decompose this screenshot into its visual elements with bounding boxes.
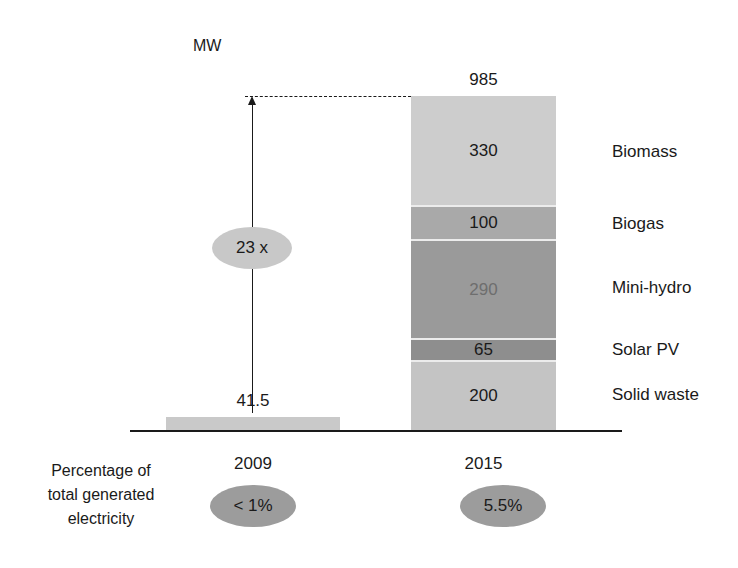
segment-value: 65 bbox=[474, 340, 493, 360]
legend-solar-pv: Solar PV bbox=[612, 340, 679, 360]
segment-value: 330 bbox=[469, 141, 497, 161]
total-2015-label: 985 bbox=[411, 70, 556, 90]
legend-solid-waste: Solid waste bbox=[612, 385, 699, 405]
segment-solar-pv: 65 bbox=[411, 340, 556, 362]
segment-value: 200 bbox=[469, 386, 497, 406]
x-label-2015: 2015 bbox=[411, 454, 556, 474]
arrow-up-icon bbox=[248, 96, 256, 105]
x-axis-baseline bbox=[130, 430, 622, 432]
legend-mini-hydro: Mini-hydro bbox=[612, 278, 691, 298]
legend-biogas: Biogas bbox=[612, 214, 664, 234]
pct-badge-2009: < 1% bbox=[210, 485, 296, 527]
segment-mini-hydro: 290 bbox=[411, 241, 556, 340]
segment-biogas: 100 bbox=[411, 207, 556, 241]
bar-2009 bbox=[166, 417, 340, 430]
legend-biomass: Biomass bbox=[612, 142, 677, 162]
pct-badge-2015: 5.5% bbox=[460, 485, 546, 527]
segment-biomass: 330 bbox=[411, 96, 556, 207]
y-axis-unit-label: MW bbox=[193, 36, 221, 56]
segment-solid-waste: 200 bbox=[411, 362, 556, 430]
bar-2015-stack: 330 100 290 65 200 bbox=[411, 96, 556, 430]
growth-badge: 23 x bbox=[212, 227, 292, 269]
segment-value: 100 bbox=[469, 213, 497, 233]
pct-badge-2015-text: 5.5% bbox=[484, 496, 523, 516]
total-2009-label: 41.5 bbox=[166, 391, 340, 411]
segment-value: 290 bbox=[469, 280, 497, 300]
dashed-reference-line bbox=[245, 96, 411, 97]
growth-badge-text: 23 x bbox=[236, 238, 268, 258]
pct-badge-2009-text: < 1% bbox=[233, 496, 272, 516]
percentage-caption: Percentage of total generated electricit… bbox=[36, 459, 166, 531]
x-label-2009: 2009 bbox=[166, 454, 340, 474]
